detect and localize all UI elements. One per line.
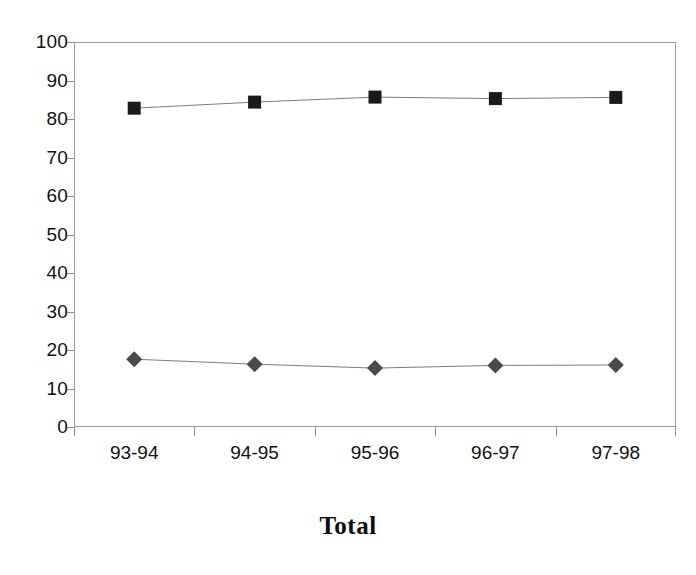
y-axis-tick-mark [67,119,75,120]
y-axis-tick-mark [67,196,75,197]
y-axis-tick-value: 70 [26,148,68,167]
y-axis-tick-mark [67,81,75,82]
x-axis-tick-mark [675,427,676,436]
y-axis-tick-value: 100 [26,32,68,51]
chart-title: Total [0,512,696,540]
y-axis-tick-label: 20 [0,340,68,360]
y-axis-tick-mark [67,273,75,274]
y-axis-tick-label: 0 [0,417,68,437]
y-axis-tick-mark [67,389,75,390]
y-axis-tick-mark [67,158,75,159]
x-axis-tick-mark [435,427,436,436]
x-axis-category-label: 95-96 [315,443,435,464]
y-axis-tick-value: 0 [26,417,68,436]
y-axis-tick-mark [67,42,75,43]
y-axis-tick-label: 30 [0,302,68,322]
x-axis-tick-mark [74,427,75,436]
chart-container: 0102030405060708090100 93-9494-9595-9696… [0,0,696,575]
y-axis-tick-mark [67,235,75,236]
x-axis-tick-mark [556,427,557,436]
y-axis-tick-value: 20 [26,340,68,359]
y-axis: 0102030405060708090100 [0,0,68,575]
y-axis-tick-label: 70 [0,148,68,168]
x-axis-category-label: 97-98 [556,443,676,464]
y-axis-tick-label: 90 [0,71,68,91]
y-axis-tick-mark [67,312,75,313]
y-axis-tick-value: 60 [26,186,68,205]
y-axis-tick-value: 50 [26,225,68,244]
y-axis-tick-value: 40 [26,263,68,282]
y-axis-tick-label: 100 [0,32,68,52]
y-axis-tick-value: 90 [26,71,68,90]
y-axis-tick-mark [67,350,75,351]
x-axis-category-label: 94-95 [195,443,315,464]
y-axis-tick-label: 50 [0,225,68,245]
y-axis-tick-value: 30 [26,302,68,321]
y-axis-tick-label: 60 [0,186,68,206]
y-axis-tick-label: 10 [0,379,68,399]
x-axis-tick-mark [194,427,195,436]
x-axis-category-label: 93-94 [74,443,194,464]
plot-area [74,42,676,427]
y-axis-tick-label: 80 [0,109,68,129]
y-axis-tick-value: 10 [26,379,68,398]
y-axis-tick-label: 40 [0,263,68,283]
x-axis-tick-mark [315,427,316,436]
x-axis-category-label: 96-97 [435,443,555,464]
y-axis-tick-value: 80 [26,109,68,128]
